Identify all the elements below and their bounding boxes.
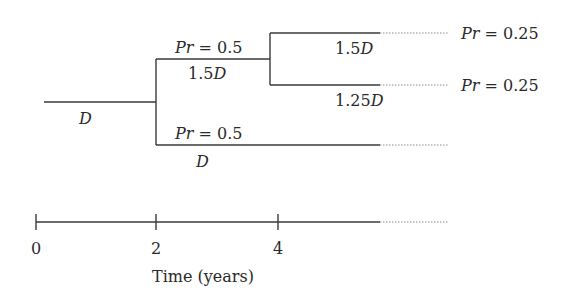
tick-label-4: 4 [273, 239, 283, 258]
up-up-value-label: 1.5D [335, 39, 373, 58]
tick-label-0: 0 [31, 239, 41, 258]
timeline-axis: 0 2 4 Time (years) [31, 214, 448, 286]
tick-label-2: 2 [151, 239, 161, 258]
axis-label: Time (years) [152, 267, 254, 286]
down-value-label: D [195, 152, 209, 171]
up-down-value-label: 1.25D [335, 91, 384, 110]
root-value-label: D [78, 109, 92, 128]
binomial-tree-diagram: D Pr = 0.5 1.5D Pr = 0.5 D 1.5D Pr = 0.2… [0, 0, 575, 302]
down-probability-label: Pr = 0.5 [174, 124, 242, 143]
up-up-probability-label: Pr = 0.25 [460, 24, 539, 43]
up-value-label: 1.5D [188, 64, 226, 83]
up-down-probability-label: Pr = 0.25 [460, 76, 539, 95]
up-probability-label: Pr = 0.5 [174, 38, 242, 57]
